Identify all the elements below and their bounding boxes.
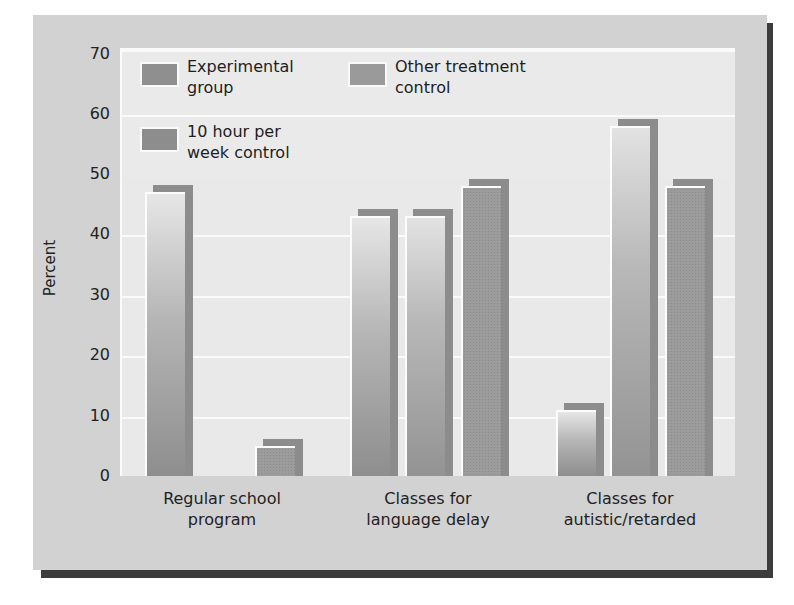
bar-other-treatment-cat-2 [405, 216, 445, 476]
y-tick-10: 10 [62, 407, 110, 425]
x-label-cat-2: Classes for language delay [343, 488, 513, 530]
legend-row-1: Experimental group Other treatment contr… [122, 50, 735, 115]
legend-label-experimental: Experimental group [187, 56, 294, 98]
y-tick-30: 30 [62, 286, 110, 304]
bar-other-treatment-cat-3 [610, 126, 650, 476]
legend-swatch-other-treatment [348, 62, 387, 87]
legend-swatch-10-hour [140, 127, 179, 152]
y-tick-70: 70 [62, 45, 110, 63]
bar-10-hour-cat-2 [461, 186, 501, 476]
legend-item-10-hour: 10 hour per week control [140, 121, 290, 163]
y-tick-60: 60 [62, 105, 110, 123]
y-tick-40: 40 [62, 225, 110, 243]
x-label-cat-1: Regular school program [137, 488, 307, 530]
y-tick-50: 50 [62, 165, 110, 183]
bar-experimental-cat-2 [350, 216, 390, 476]
bar-experimental-cat-1 [145, 192, 185, 476]
bar-experimental-cat-3 [556, 410, 596, 476]
legend-swatch-experimental [140, 62, 179, 87]
y-tick-20: 20 [62, 346, 110, 364]
bar-10-hour-cat-3 [665, 186, 705, 476]
legend-label-10-hour: 10 hour per week control [187, 121, 290, 163]
legend-item-other-treatment: Other treatment control [348, 56, 526, 98]
bar-10-hour-cat-1 [255, 446, 295, 476]
y-tick-0: 0 [62, 467, 110, 485]
x-label-cat-3: Classes for autistic/retarded [545, 488, 715, 530]
legend-item-experimental: Experimental group [140, 56, 294, 98]
y-axis-label: Percent [41, 240, 59, 296]
legend-label-other-treatment: Other treatment control [395, 56, 526, 98]
